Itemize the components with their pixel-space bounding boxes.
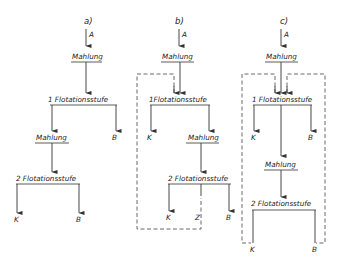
output-B: B: [226, 213, 231, 222]
node-mahlung-2: Mahlung: [265, 160, 296, 169]
output-B: B: [308, 133, 313, 142]
node-flotation-2: 2 Flotationsstufe: [168, 174, 229, 183]
node-mahlung-1: Mahlung: [162, 52, 193, 61]
output-B: B: [76, 215, 81, 224]
output-K: K: [251, 133, 257, 142]
node-mahlung-1: Mahlung: [266, 52, 297, 61]
output-B: B: [312, 245, 317, 254]
output-K: K: [147, 133, 153, 142]
output-B: B: [112, 133, 117, 142]
panel-c-title: c): [280, 16, 288, 26]
node-mahlung-2: Mahlung: [36, 133, 67, 142]
flowsheet-diagram: a) A Mahlung 1 Flotationsstufe B Mahlung…: [0, 0, 339, 257]
panel-a-title: a): [84, 16, 93, 26]
node-flotation-1: 1 Flotationsstufe: [48, 95, 109, 104]
feed-label: A: [181, 30, 187, 39]
node-flotation-1: 1Flotationsstufe: [149, 95, 207, 104]
panel-c: c) A Mahlung 1 Flotationsstufe K B Mahlu…: [242, 16, 325, 254]
panel-b-title: b): [175, 16, 184, 26]
panel-b: b) A Mahlung 1Flotationsstufe K Mahlung …: [137, 16, 231, 229]
node-flotation-1: 1 Flotationsstufe: [252, 95, 313, 104]
feed-label: A: [88, 30, 94, 39]
output-K: K: [14, 215, 20, 224]
panel-a: a) A Mahlung 1 Flotationsstufe B Mahlung…: [14, 16, 117, 224]
node-mahlung-1: Mahlung: [72, 52, 103, 61]
node-flotation-2: 2 Flotationsstufe: [16, 174, 77, 183]
node-mahlung-2: Mahlung: [188, 133, 219, 142]
output-K: K: [250, 245, 256, 254]
output-Z: Z: [194, 213, 201, 222]
node-flotation-2: 2 Flotationsstufe: [251, 199, 312, 208]
output-K: K: [166, 213, 172, 222]
feed-label: A: [283, 30, 289, 39]
